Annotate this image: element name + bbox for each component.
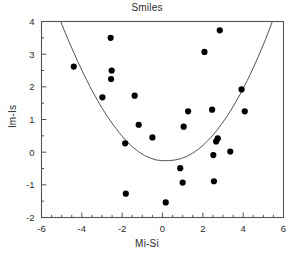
chart-figure: Smiles -6-4-20246 -2-101234 Mi-Si Im-Is: [0, 0, 294, 260]
x-axis-ticks: [42, 213, 284, 218]
svg-text:-1: -1: [26, 179, 34, 190]
svg-text:0: 0: [160, 223, 165, 234]
data-points: [71, 27, 248, 205]
y-axis-ticks: [42, 22, 47, 218]
svg-text:-6: -6: [37, 223, 45, 234]
svg-text:4: 4: [29, 16, 34, 27]
y-axis-label: Im-Is: [7, 77, 18, 157]
svg-text:2: 2: [29, 81, 34, 92]
svg-text:2: 2: [200, 223, 205, 234]
x-axis-tick-labels: -6-4-20246: [37, 223, 286, 234]
x-axis-label: Mi-Si: [0, 238, 294, 249]
svg-text:4: 4: [241, 223, 246, 234]
plot-frame: [42, 22, 284, 218]
svg-text:3: 3: [29, 49, 34, 60]
fitted-parabola-curve: [61, 0, 284, 161]
svg-text:0: 0: [29, 147, 34, 158]
svg-text:-2: -2: [26, 212, 34, 223]
svg-text:1: 1: [29, 114, 34, 125]
svg-text:-4: -4: [78, 223, 86, 234]
svg-text:-2: -2: [118, 223, 126, 234]
y-axis-tick-labels: -2-101234: [26, 16, 34, 223]
svg-text:6: 6: [281, 223, 286, 234]
scatter-plot: -6-4-20246 -2-101234: [0, 0, 294, 260]
